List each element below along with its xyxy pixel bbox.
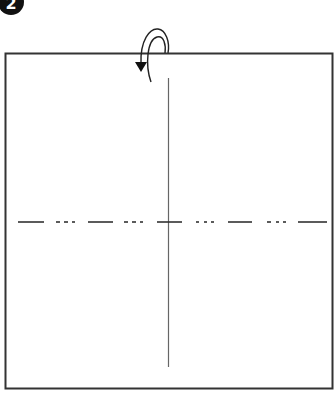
origami-diagram: 2 (0, 0, 336, 396)
step-badge-label: 2 (5, 0, 16, 13)
step-badge: 2 (0, 0, 24, 15)
